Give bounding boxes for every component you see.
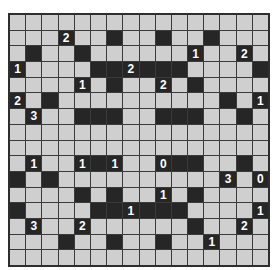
white-cell[interactable] xyxy=(220,156,235,171)
white-cell[interactable] xyxy=(237,62,252,77)
white-cell[interactable] xyxy=(123,156,138,171)
white-cell[interactable] xyxy=(156,46,171,61)
white-cell[interactable] xyxy=(156,93,171,108)
white-cell[interactable] xyxy=(204,203,219,218)
white-cell[interactable] xyxy=(172,93,187,108)
white-cell[interactable] xyxy=(91,93,106,108)
white-cell[interactable] xyxy=(107,219,122,234)
white-cell[interactable] xyxy=(123,141,138,156)
white-cell[interactable] xyxy=(220,188,235,203)
white-cell[interactable] xyxy=(75,31,90,46)
white-cell[interactable] xyxy=(123,31,138,46)
white-cell[interactable] xyxy=(107,125,122,140)
white-cell[interactable] xyxy=(91,46,106,61)
white-cell[interactable] xyxy=(26,188,41,203)
white-cell[interactable] xyxy=(10,46,25,61)
white-cell[interactable] xyxy=(26,78,41,93)
white-cell[interactable] xyxy=(204,109,219,124)
white-cell[interactable] xyxy=(91,141,106,156)
white-cell[interactable] xyxy=(42,46,57,61)
white-cell[interactable] xyxy=(10,78,25,93)
white-cell[interactable] xyxy=(253,219,268,234)
white-cell[interactable] xyxy=(140,250,155,265)
white-cell[interactable] xyxy=(59,156,74,171)
white-cell[interactable] xyxy=(172,31,187,46)
white-cell[interactable] xyxy=(253,125,268,140)
white-cell[interactable] xyxy=(140,31,155,46)
white-cell[interactable] xyxy=(253,15,268,30)
white-cell[interactable] xyxy=(237,188,252,203)
white-cell[interactable] xyxy=(91,15,106,30)
white-cell[interactable] xyxy=(253,250,268,265)
white-cell[interactable] xyxy=(188,62,203,77)
white-cell[interactable] xyxy=(75,15,90,30)
white-cell[interactable] xyxy=(59,46,74,61)
white-cell[interactable] xyxy=(253,188,268,203)
white-cell[interactable] xyxy=(10,141,25,156)
white-cell[interactable] xyxy=(123,15,138,30)
white-cell[interactable] xyxy=(10,125,25,140)
white-cell[interactable] xyxy=(188,15,203,30)
white-cell[interactable] xyxy=(237,31,252,46)
white-cell[interactable] xyxy=(140,156,155,171)
white-cell[interactable] xyxy=(220,31,235,46)
white-cell[interactable] xyxy=(188,172,203,187)
white-cell[interactable] xyxy=(10,156,25,171)
white-cell[interactable] xyxy=(107,172,122,187)
white-cell[interactable] xyxy=(188,125,203,140)
white-cell[interactable] xyxy=(253,78,268,93)
white-cell[interactable] xyxy=(204,156,219,171)
white-cell[interactable] xyxy=(59,93,74,108)
white-cell[interactable] xyxy=(42,109,57,124)
white-cell[interactable] xyxy=(237,172,252,187)
white-cell[interactable] xyxy=(42,203,57,218)
white-cell[interactable] xyxy=(204,250,219,265)
white-cell[interactable] xyxy=(140,46,155,61)
white-cell[interactable] xyxy=(140,78,155,93)
white-cell[interactable] xyxy=(75,235,90,250)
white-cell[interactable] xyxy=(220,125,235,140)
white-cell[interactable] xyxy=(42,235,57,250)
white-cell[interactable] xyxy=(204,93,219,108)
white-cell[interactable] xyxy=(10,31,25,46)
white-cell[interactable] xyxy=(172,125,187,140)
white-cell[interactable] xyxy=(123,219,138,234)
white-cell[interactable] xyxy=(220,62,235,77)
white-cell[interactable] xyxy=(107,250,122,265)
white-cell[interactable] xyxy=(172,188,187,203)
white-cell[interactable] xyxy=(253,235,268,250)
white-cell[interactable] xyxy=(140,219,155,234)
white-cell[interactable] xyxy=(26,250,41,265)
white-cell[interactable] xyxy=(26,62,41,77)
white-cell[interactable] xyxy=(220,141,235,156)
white-cell[interactable] xyxy=(107,141,122,156)
white-cell[interactable] xyxy=(42,250,57,265)
white-cell[interactable] xyxy=(123,188,138,203)
white-cell[interactable] xyxy=(10,109,25,124)
white-cell[interactable] xyxy=(253,46,268,61)
white-cell[interactable] xyxy=(123,250,138,265)
white-cell[interactable] xyxy=(59,125,74,140)
white-cell[interactable] xyxy=(172,78,187,93)
white-cell[interactable] xyxy=(204,15,219,30)
white-cell[interactable] xyxy=(42,15,57,30)
white-cell[interactable] xyxy=(237,250,252,265)
white-cell[interactable] xyxy=(10,235,25,250)
white-cell[interactable] xyxy=(188,235,203,250)
white-cell[interactable] xyxy=(156,172,171,187)
white-cell[interactable] xyxy=(123,109,138,124)
white-cell[interactable] xyxy=(220,235,235,250)
white-cell[interactable] xyxy=(253,109,268,124)
white-cell[interactable] xyxy=(107,93,122,108)
white-cell[interactable] xyxy=(75,172,90,187)
white-cell[interactable] xyxy=(26,141,41,156)
white-cell[interactable] xyxy=(59,203,74,218)
white-cell[interactable] xyxy=(42,219,57,234)
white-cell[interactable] xyxy=(59,172,74,187)
white-cell[interactable] xyxy=(204,62,219,77)
white-cell[interactable] xyxy=(204,188,219,203)
white-cell[interactable] xyxy=(237,141,252,156)
white-cell[interactable] xyxy=(140,109,155,124)
white-cell[interactable] xyxy=(253,141,268,156)
white-cell[interactable] xyxy=(123,172,138,187)
